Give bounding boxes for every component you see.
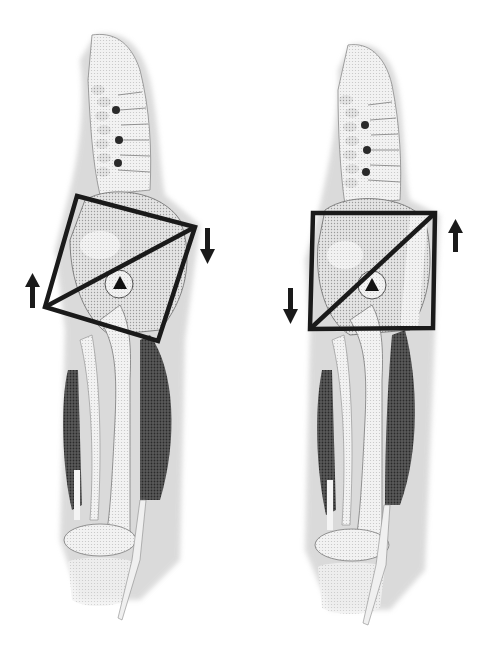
- right-arrow-up-icon: [448, 219, 463, 252]
- pelvic-tilt-figure: [0, 0, 490, 656]
- left-arrow-up-icon: [25, 273, 40, 308]
- left-knee-condyle: [64, 524, 136, 556]
- right-anatomy: [305, 44, 440, 625]
- right-arrow-down-icon: [283, 288, 298, 324]
- left-arrow-down-icon: [200, 228, 215, 264]
- left-anatomy: [55, 34, 200, 620]
